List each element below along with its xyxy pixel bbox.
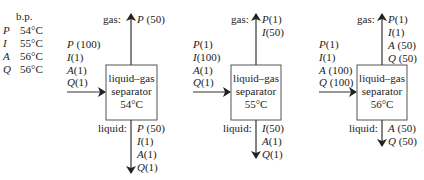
input-stream-2: P(1) I(100) A(1) Q(1) (192, 38, 230, 92)
legend-temp: 56°C (20, 50, 43, 62)
component-symbol: Q (262, 148, 270, 160)
gas-label: gas: (103, 13, 121, 25)
svg-text:Q (100): Q (100) (319, 76, 354, 89)
component-amount: (1) (326, 38, 339, 51)
separator-label-line2: separator (111, 85, 152, 97)
legend-symbol: P (2, 24, 10, 36)
component-symbol: A (387, 39, 395, 51)
svg-text:A(1): A(1) (136, 148, 157, 161)
component-amount: (50) (397, 39, 416, 52)
liquid-label: liquid: (98, 122, 127, 134)
svg-text:I(100): I(100) (192, 51, 221, 64)
liquid-label: liquid: (349, 122, 378, 134)
legend-symbol: Q (3, 63, 11, 75)
component-symbol: A (387, 122, 395, 134)
svg-text:I(1): I(1) (66, 51, 84, 64)
svg-text:Q(1): Q(1) (67, 76, 88, 89)
component-amount: (1) (200, 38, 213, 51)
separator-1: P (100) I(1) A(1) Q(1) liquid–gas separa… (66, 13, 165, 174)
component-symbol: P (66, 38, 74, 50)
separator-temperature: 54°C (120, 98, 143, 110)
svg-text:P (50): P (50) (136, 122, 165, 135)
component-amount: (1) (75, 76, 88, 89)
svg-text:P(1): P(1) (261, 13, 282, 26)
input-stream-1: P (100) I(1) A(1) Q(1) (66, 38, 105, 92)
svg-text:I(1): I(1) (318, 51, 336, 64)
separator-label-line2: separator (236, 85, 277, 97)
svg-text:A(1): A(1) (261, 135, 282, 148)
gas-label: gas: (231, 13, 249, 25)
component-amount: (1) (323, 51, 336, 64)
component-amount: (1) (141, 135, 154, 148)
svg-text:Q (50): Q (50) (388, 135, 417, 148)
component-symbol: Q (319, 76, 327, 88)
svg-text:P(1): P(1) (387, 13, 408, 26)
svg-text:Q(1): Q(1) (193, 76, 214, 89)
legend-temp: 56°C (20, 63, 43, 75)
legend-symbol: A (2, 50, 10, 62)
separator-2: P(1) I(100) A(1) Q(1) liquid–gas separat… (192, 13, 284, 161)
component-symbol: Q (388, 135, 396, 147)
component-amount: (100) (76, 38, 100, 51)
separator-temperature: 56°C (371, 98, 394, 110)
svg-text:Q(1): Q(1) (262, 148, 283, 161)
svg-text:P(1): P(1) (192, 38, 213, 51)
component-symbol: A (318, 64, 326, 76)
boiling-point-legend: b.p. P 54°C I 55°C A 56°C Q 56°C (2, 10, 43, 75)
liquid-label: liquid: (223, 122, 252, 134)
component-amount: (50) (397, 122, 416, 135)
component-amount: (1) (395, 13, 408, 26)
svg-text:I(1): I(1) (387, 26, 405, 39)
svg-text:P (50): P (50) (136, 13, 165, 26)
component-symbol: Q (193, 76, 201, 88)
separator-3: P(1) I(1) A (100) Q (100) liquid–gas sep… (318, 13, 417, 148)
legend-symbol: I (2, 37, 8, 49)
svg-text:P (100): P (100) (66, 38, 101, 51)
gas-label: gas: (357, 13, 375, 25)
separator-label-line1: liquid–gas (359, 72, 405, 84)
component-amount: (50) (266, 26, 285, 39)
component-amount: (1) (392, 26, 405, 39)
component-symbol: Q (67, 76, 75, 88)
component-amount: (1) (201, 76, 214, 89)
svg-text:I(50): I(50) (261, 26, 284, 39)
separator-diagram: b.p. P 54°C I 55°C A 56°C Q 56°C P (100)… (0, 0, 424, 180)
legend-temp: 55°C (20, 37, 43, 49)
component-amount: (1) (269, 13, 282, 26)
component-amount: (50) (399, 135, 418, 148)
component-amount: (50) (146, 122, 165, 135)
svg-text:A (50): A (50) (387, 122, 416, 135)
legend-temp: 54°C (20, 24, 43, 36)
component-amount: (100) (330, 76, 354, 89)
svg-text:Q(1): Q(1) (137, 161, 158, 174)
svg-text:P(1): P(1) (318, 38, 339, 51)
separator-temperature: 55°C (245, 98, 268, 110)
component-amount: (1) (269, 135, 282, 148)
svg-text:Q (50): Q (50) (388, 52, 417, 65)
component-amount: (50) (266, 122, 285, 135)
component-symbol: P (136, 13, 144, 25)
svg-text:A (50): A (50) (387, 39, 416, 52)
svg-text:I(1): I(1) (136, 135, 154, 148)
input-stream-3: P(1) I(1) A (100) Q (100) (318, 38, 356, 92)
component-amount: (50) (146, 13, 165, 26)
separator-label-line2: separator (362, 85, 403, 97)
component-amount: (100) (197, 51, 221, 64)
separator-label-line1: liquid–gas (233, 72, 279, 84)
component-symbol: Q (388, 52, 396, 64)
svg-text:I(50): I(50) (261, 122, 284, 135)
separator-label-line1: liquid–gas (109, 72, 155, 84)
component-amount: (1) (270, 148, 283, 161)
component-symbol: Q (137, 161, 145, 173)
component-amount: (1) (71, 51, 84, 64)
component-amount: (1) (144, 148, 157, 161)
component-amount: (50) (399, 52, 418, 65)
component-symbol: P (136, 122, 144, 134)
component-amount: (1) (145, 161, 158, 174)
legend-header: b.p. (16, 10, 33, 22)
